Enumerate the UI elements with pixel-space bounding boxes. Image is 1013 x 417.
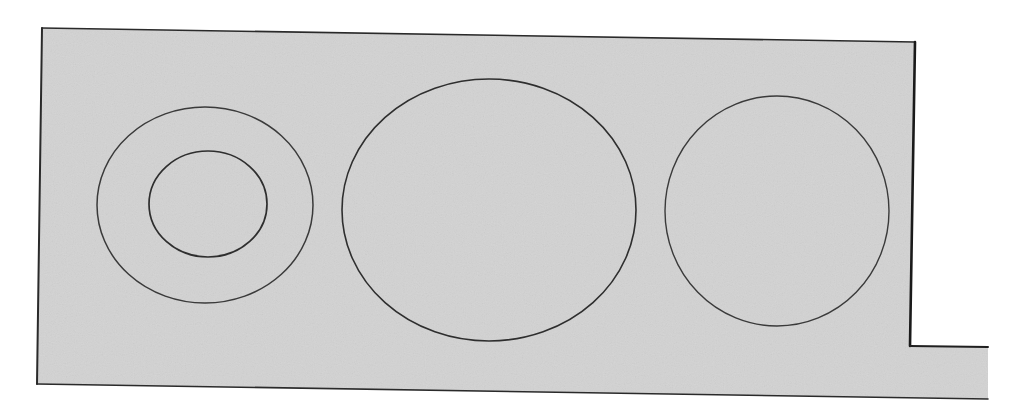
- diagram-canvas: [0, 0, 1013, 417]
- plate-body: [37, 28, 988, 399]
- plate-step-edge: [910, 346, 988, 347]
